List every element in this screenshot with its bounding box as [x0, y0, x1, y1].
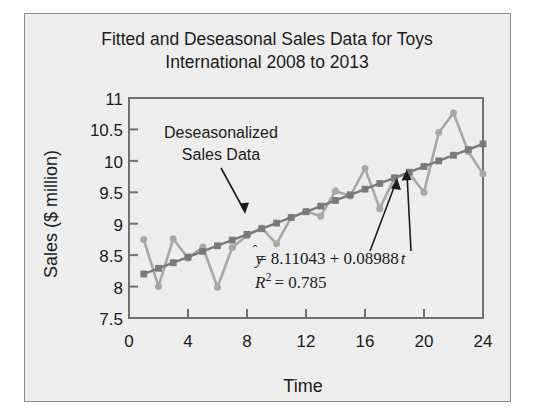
y-tick-labels: 11 10.5 10 9.5 9 8.5 8 7.5	[90, 90, 123, 329]
x-tick-label: 8	[242, 332, 251, 351]
chart-title-line2: International 2008 to 2013	[165, 52, 368, 72]
x-tick-label: 24	[474, 332, 493, 351]
y-tick-label: 7.5	[99, 310, 123, 329]
data-point-square	[273, 220, 280, 227]
sales-trend-chart: Fitted and Deseasonal Sales Data for Toy…	[25, 14, 510, 401]
equation-arrow-line-right	[407, 174, 411, 251]
data-point-square	[480, 140, 487, 147]
data-point-square	[199, 248, 206, 255]
data-point-square	[185, 254, 192, 261]
data-point-square	[229, 237, 236, 244]
data-point-circle	[170, 235, 177, 242]
y-tick-label: 10.5	[90, 121, 123, 140]
data-point-square	[465, 146, 472, 153]
data-point-square	[170, 259, 177, 266]
equation-text: ŷ= 8.11043 + 0.08988t	[252, 245, 407, 268]
data-point-circle	[332, 188, 339, 195]
data-point-square	[155, 265, 162, 272]
data-point-circle	[480, 171, 487, 178]
data-point-circle	[229, 244, 236, 251]
data-point-square	[303, 208, 310, 215]
x-axis-label: Time	[283, 376, 322, 396]
data-point-circle	[362, 165, 369, 172]
data-point-circle	[435, 129, 442, 136]
equation-body: = 8.11043 + 0.08988	[257, 249, 399, 268]
data-point-square	[421, 163, 428, 170]
data-point-square	[347, 191, 354, 198]
deseasonalized-arrow-head	[240, 203, 250, 215]
data-point-square	[332, 197, 339, 204]
y-tick-label: 8	[114, 279, 123, 298]
x-tick-label: 0	[124, 332, 133, 351]
regression-equation-annotation: ŷ= 8.11043 + 0.08988t R2= 0.785	[252, 170, 412, 292]
x-tick-label: 4	[183, 332, 192, 351]
equation-variable: t	[401, 249, 407, 268]
data-point-square	[362, 186, 369, 193]
deseasonalized-label-line1: Deseasonalized	[164, 124, 278, 141]
data-point-square	[450, 152, 457, 159]
data-point-circle	[317, 213, 324, 220]
x-tick-label: 12	[297, 332, 316, 351]
deseasonalized-annotation: Deseasonalized Sales Data	[164, 124, 278, 214]
data-point-circle	[421, 189, 428, 196]
chart-title-line1: Fitted and Deseasonal Sales Data for Toy…	[101, 29, 433, 49]
r-exponent: 2	[265, 270, 271, 284]
data-point-square	[317, 203, 324, 210]
y-tick-label: 8.5	[99, 247, 123, 266]
r-squared-text: R2= 0.785	[254, 270, 326, 292]
data-point-circle	[273, 240, 280, 247]
x-tick-label: 16	[356, 332, 375, 351]
data-point-circle	[214, 284, 221, 291]
data-point-square	[258, 225, 265, 232]
data-point-square	[140, 271, 147, 278]
deseasonalized-label-line2: Sales Data	[182, 146, 260, 163]
data-point-circle	[376, 205, 383, 212]
figure-panel: Fitted and Deseasonal Sales Data for Toy…	[24, 13, 511, 402]
y-tick-label: 11	[105, 90, 123, 109]
data-point-circle	[140, 236, 147, 243]
x-tick-label: 20	[415, 332, 434, 351]
y-axis-label: Sales ($ million)	[41, 150, 61, 278]
data-point-square	[376, 180, 383, 187]
y-tick-label: 9	[114, 216, 123, 235]
data-point-square	[214, 242, 221, 249]
r-symbol: R	[254, 273, 266, 292]
data-point-circle	[450, 110, 457, 117]
y-tick-label: 9.5	[99, 184, 123, 203]
data-point-square	[435, 157, 442, 164]
x-tick-labels: 0 4 8 12 16 20 24	[124, 332, 492, 351]
data-point-square	[288, 214, 295, 221]
data-point-square	[244, 231, 251, 238]
y-tick-label: 10	[104, 153, 123, 172]
data-point-circle	[155, 283, 162, 290]
r-value: = 0.785	[274, 273, 326, 292]
